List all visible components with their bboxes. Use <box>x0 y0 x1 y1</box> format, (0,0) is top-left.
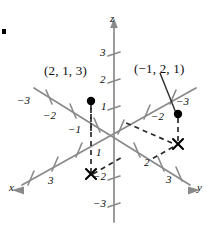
y-tick-label-3: 3 <box>166 174 172 185</box>
z-tick-label-neg2: −2 <box>93 171 106 182</box>
point-b-foot-to-x <box>124 122 172 143</box>
z-tick-label-neg3: −3 <box>93 198 106 209</box>
z-tick-label-2: 2 <box>100 74 106 85</box>
y-tick-label-neg3: −3 <box>17 95 30 106</box>
x-axis-label: x <box>9 182 14 193</box>
point-a-dot <box>87 97 95 105</box>
x-tick-label-neg1: −1 <box>68 124 81 135</box>
z-tick-label-3: 3 <box>100 47 106 58</box>
x-tick-2 <box>52 157 58 171</box>
axes-group <box>12 18 200 222</box>
x-tick-neg1 <box>118 120 124 134</box>
point-b-dot <box>174 110 182 118</box>
x-tick-label-neg2: −2 <box>151 111 164 122</box>
y-tick-label-1: 1 <box>96 147 102 158</box>
y-axis-line <box>34 88 190 185</box>
x-tick-neg2 <box>144 105 150 119</box>
point-b-foot-to-y <box>150 147 173 160</box>
x-tick-1 <box>76 143 82 157</box>
z-axis-label: z <box>110 13 114 24</box>
y-tick-2 <box>158 157 164 171</box>
point-b-label: (−1, 2, 1) <box>134 62 185 75</box>
x-tick-label-3: 3 <box>48 175 54 186</box>
z-tick-label-1: 1 <box>101 101 107 112</box>
point-a-label: (2, 1, 3) <box>44 64 87 77</box>
x-tick-label-neg3: −3 <box>176 96 189 107</box>
y-tick-label-2: 2 <box>144 157 150 168</box>
y-axis-label: y <box>197 182 202 193</box>
y-tick-label-neg2: −2 <box>43 110 56 121</box>
